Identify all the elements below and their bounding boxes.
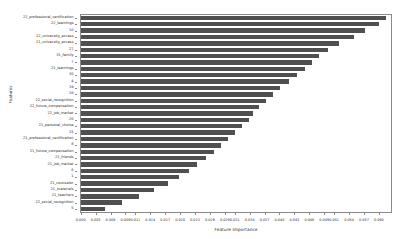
x-tick-mark: [135, 213, 136, 215]
y-tick-label: 21_counselor: [50, 182, 73, 186]
bar: [81, 48, 328, 52]
y-tick-label: 7: [71, 61, 73, 65]
x-tick-mark: [125, 213, 126, 215]
y-tick-label: 8: [71, 143, 73, 147]
y-tick-mark: [75, 171, 77, 172]
y-tick-mark: [75, 24, 77, 25]
y-tick-label: 21_professional_certification: [23, 137, 74, 141]
y-tick-mark: [75, 177, 77, 178]
y-tick-mark: [75, 31, 77, 32]
bars-container: [81, 15, 392, 213]
x-tick-mark: [279, 213, 280, 215]
bar: [81, 124, 243, 128]
x-tick-mark: [250, 213, 251, 215]
x-tick-label: 0.040: [275, 218, 285, 222]
y-tick-label: 27: [69, 48, 74, 52]
bar: [81, 207, 105, 211]
x-tick-label: 0.060: [374, 218, 384, 222]
y-tick-label: 22_future_compensation: [30, 105, 74, 109]
x-tick-label: 0.020: [175, 218, 185, 222]
y-tick-mark: [75, 37, 77, 38]
x-tick-mark: [96, 213, 97, 215]
y-tick-label: 31_family: [56, 54, 73, 58]
bar: [81, 54, 320, 58]
x-tick-label: 0.029: [220, 218, 230, 222]
y-tick-label: 22_professional_certification: [23, 16, 74, 20]
y-tick-mark: [75, 126, 77, 127]
y-tick-mark: [75, 203, 77, 204]
bar: [81, 130, 235, 134]
x-tick-mark: [81, 213, 82, 215]
x-axis-tick-labels: 0.0000.0030.0060.0090.0110.0140.0170.020…: [80, 213, 392, 227]
y-tick-label: 21_teachers: [52, 194, 74, 198]
x-tick-mark: [349, 213, 350, 215]
x-tick-mark: [235, 213, 236, 215]
x-tick-mark: [294, 213, 295, 215]
x-tick-mark: [165, 213, 166, 215]
y-tick-label: 30: [69, 73, 74, 77]
x-tick-mark: [111, 213, 112, 215]
bar: [81, 22, 379, 26]
y-tick-mark: [75, 158, 77, 159]
x-tick-mark: [379, 213, 380, 215]
x-tick-mark: [225, 213, 226, 215]
bar: [81, 118, 249, 122]
x-tick-label: 0.054: [344, 218, 354, 222]
y-tick-label: 22_social_recognition: [35, 201, 73, 205]
x-tick-mark: [180, 213, 181, 215]
bar: [81, 28, 366, 32]
bar: [81, 162, 197, 166]
bar: [81, 175, 179, 179]
bar: [81, 188, 155, 192]
y-tick-mark: [75, 43, 77, 44]
bar: [81, 41, 339, 45]
y-tick-mark: [75, 120, 77, 121]
bar: [81, 86, 280, 90]
bar: [81, 181, 168, 185]
bar: [81, 92, 273, 96]
y-tick-label: 20: [69, 118, 74, 122]
y-tick-label: 19: [69, 86, 74, 90]
y-tick-label: 21_job_market: [48, 163, 74, 167]
x-tick-label: 0.043: [289, 218, 299, 222]
x-axis-label: Feature Importance: [80, 227, 392, 232]
y-tick-label: 22_university_access: [36, 35, 73, 39]
x-tick-label: 0.009: [121, 218, 131, 222]
x-tick-label: 0.011: [130, 218, 140, 222]
x-tick-label: 0.057: [359, 218, 369, 222]
y-tick-label: 4: [71, 80, 73, 84]
y-tick-mark: [75, 88, 77, 89]
x-tick-label: 0.049: [319, 218, 329, 222]
x-tick-label: 0.034: [245, 218, 255, 222]
bar: [81, 169, 189, 173]
x-tick-label: 0.017: [160, 218, 170, 222]
y-tick-label: 5: [71, 207, 73, 211]
bar: [81, 99, 266, 103]
y-tick-label: 22_job_market: [48, 112, 74, 116]
feature-importance-chart: Features 22_professional_certification22…: [0, 0, 417, 239]
y-tick-mark: [75, 164, 77, 165]
x-tick-label: 0.051: [329, 218, 339, 222]
y-tick-mark: [75, 82, 77, 83]
y-tick-label: 21_future_compensation: [30, 150, 74, 154]
x-tick-label: 0.031: [230, 218, 240, 222]
x-tick-label: 0.023: [190, 218, 200, 222]
y-tick-mark: [75, 69, 77, 70]
y-tick-label: 22_learnings: [51, 22, 74, 26]
bar: [81, 60, 313, 64]
bar: [81, 137, 228, 141]
x-tick-label: 0.046: [304, 218, 314, 222]
y-tick-mark: [75, 139, 77, 140]
bar: [81, 79, 289, 83]
x-tick-label: 0.000: [76, 218, 86, 222]
y-tick-mark: [75, 196, 77, 197]
y-tick-label: 1: [71, 175, 73, 179]
y-tick-label: 21_friends: [55, 156, 73, 160]
y-tick-label: 22_social_recognition: [35, 99, 73, 103]
y-tick-label: 16: [69, 92, 74, 96]
y-tick-mark: [75, 50, 77, 51]
y-tick-mark: [75, 184, 77, 185]
y-tick-mark: [75, 145, 77, 146]
bar: [81, 105, 259, 109]
y-tick-label: 21_materials: [51, 188, 74, 192]
